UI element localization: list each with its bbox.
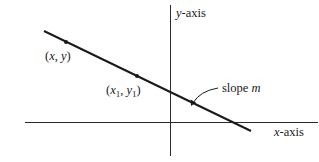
slope-label: slope m [222, 81, 261, 95]
point-x1-y1 [135, 74, 139, 78]
point-x1-y1-label: (x1, y1) [106, 83, 141, 99]
x-axis-label: x-axis [273, 125, 304, 139]
point-x-y-label: (x, y) [45, 49, 71, 63]
point-x-y [64, 40, 68, 44]
y-axis-label: y-axis [174, 6, 206, 20]
slope-line [44, 31, 251, 131]
slope-diagram: y-axis x-axis (x, y) (x1, y1) slope m [0, 0, 319, 162]
slope-arrow [193, 88, 218, 103]
